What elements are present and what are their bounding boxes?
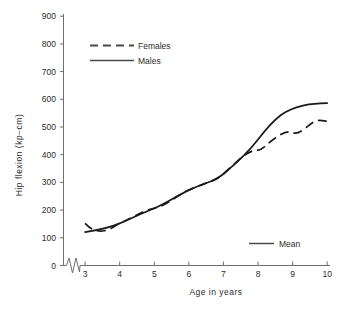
y-tick-marks: [60, 16, 64, 265]
y-tick-label-0: 0: [51, 261, 56, 271]
hip-flexion-chart-figure: 0 100 200 300 400 500 600 700 800 900 3 …: [0, 0, 350, 311]
x-tick-marks: [85, 262, 327, 266]
x-tick-label-8: 8: [256, 269, 261, 279]
legend-label-mean: Mean: [279, 239, 301, 249]
x-tick-label-7: 7: [221, 269, 226, 279]
y-tick-label-700: 700: [42, 67, 56, 77]
legend-series: Females Males: [90, 41, 171, 66]
x-axis-title: Age in years: [189, 287, 242, 297]
y-tick-label-200: 200: [42, 205, 56, 215]
x-tick-label-10: 10: [322, 269, 332, 279]
y-tick-label-800: 800: [42, 39, 56, 49]
y-tick-label-500: 500: [42, 122, 56, 132]
y-tick-label-300: 300: [42, 177, 56, 187]
y-tick-labels: 0 100 200 300 400 500 600 700 800 900: [42, 11, 56, 270]
x-tick-label-9: 9: [290, 269, 295, 279]
x-tick-label-5: 5: [152, 269, 157, 279]
legend-label-females: Females: [138, 41, 171, 51]
legend-mean: Mean: [249, 239, 301, 249]
curve-females: [85, 120, 327, 231]
chart-canvas: 0 100 200 300 400 500 600 700 800 900 3 …: [0, 0, 350, 311]
x-tick-label-4: 4: [117, 269, 122, 279]
curve-males: [85, 103, 327, 232]
y-tick-label-100: 100: [42, 233, 56, 243]
y-tick-label-900: 900: [42, 11, 56, 21]
x-tick-label-3: 3: [83, 269, 88, 279]
x-tick-labels: 3 4 5 6 7 8 9 10: [83, 269, 332, 279]
x-axis-break-icon: [67, 258, 81, 273]
y-tick-label-400: 400: [42, 150, 56, 160]
y-tick-label-600: 600: [42, 94, 56, 104]
legend-label-males: Males: [138, 56, 161, 66]
y-axis-title: Hip flexion (kp−cm): [14, 114, 24, 196]
x-tick-label-6: 6: [187, 269, 192, 279]
data-series-group: [85, 103, 327, 232]
